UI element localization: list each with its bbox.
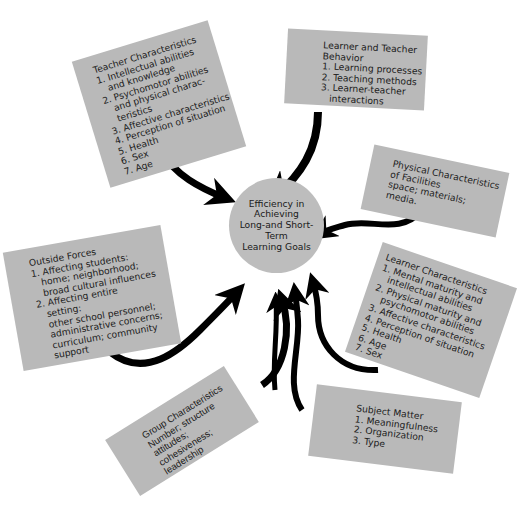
arrow-subject-a [294,292,302,410]
learning-goals-label: Efficiency in Achieving Long-and Short-T… [229,199,324,253]
learning-goals-circle: Efficiency in Achieving Long-and Short-T… [229,178,324,273]
learner-teacher-behavior-box: Learner and Teacher Behavior 1. Learning… [284,28,428,110]
arrow-subject-b [274,300,276,390]
